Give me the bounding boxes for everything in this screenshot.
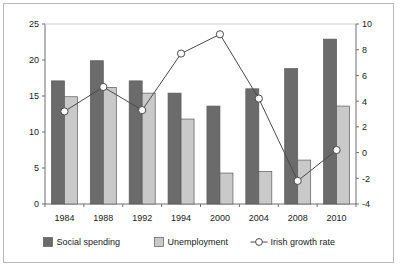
growth-rate-marker-1988 xyxy=(100,83,107,90)
x-axis-label-2008: 2008 xyxy=(288,213,308,223)
bar-unemployment-2004 xyxy=(259,172,272,204)
legend-label: Unemployment xyxy=(168,237,229,247)
bar-unemployment-1994 xyxy=(181,119,194,204)
right-axis-tick-label: 6 xyxy=(362,71,367,81)
legend-square-swatch xyxy=(44,238,53,247)
bar-social-spending-2004 xyxy=(246,89,259,204)
right-axis: -4-20246810 xyxy=(356,19,372,209)
right-axis-tick-label: 4 xyxy=(362,97,367,107)
left-axis-tick-label: 25 xyxy=(29,19,39,29)
combo-chart: 0510152025 -4-20246810 19841988199219942… xyxy=(4,4,395,264)
bars-layer xyxy=(51,39,349,204)
growth-rate-marker-2010 xyxy=(333,146,340,153)
growth-rate-marker-2004 xyxy=(255,95,262,102)
bar-social-spending-1992 xyxy=(129,81,142,204)
right-axis-tick-label: 2 xyxy=(362,122,367,132)
left-axis-tick-label: 10 xyxy=(29,127,39,137)
right-axis-tick-label: -4 xyxy=(362,199,370,209)
x-axis-label-1994: 1994 xyxy=(171,213,191,223)
left-axis-tick-label: 20 xyxy=(29,55,39,65)
bar-social-spending-2000 xyxy=(207,106,220,204)
legend-item-unemployment: Unemployment xyxy=(155,237,229,247)
x-axis-label-1992: 1992 xyxy=(132,213,152,223)
bar-unemployment-2000 xyxy=(220,173,233,204)
legend-label: Irish growth rate xyxy=(271,237,336,247)
bar-unemployment-1988 xyxy=(103,87,116,204)
legend-circle-marker-icon xyxy=(256,239,263,246)
bar-unemployment-2010 xyxy=(337,106,350,204)
bar-social-spending-2010 xyxy=(324,39,337,204)
legend-item-social-spending: Social spending xyxy=(44,237,121,247)
left-axis-tick-label: 5 xyxy=(34,163,39,173)
chart-legend: Social spendingUnemploymentIrish growth … xyxy=(44,237,336,247)
left-axis-tick-label: 15 xyxy=(29,91,39,101)
right-axis-tick-label: 8 xyxy=(362,45,367,55)
bar-social-spending-1988 xyxy=(90,61,103,204)
x-axis-label-2000: 2000 xyxy=(210,213,230,223)
x-axis-labels: 19841988199219942000200420082010 xyxy=(45,204,356,223)
bar-social-spending-1984 xyxy=(51,81,64,204)
bar-social-spending-1994 xyxy=(168,93,181,204)
growth-rate-marker-1994 xyxy=(177,50,184,57)
x-axis-label-2010: 2010 xyxy=(327,213,347,223)
left-axis-tick-label: 0 xyxy=(34,199,39,209)
growth-rate-marker-2008 xyxy=(294,177,301,184)
right-axis-tick-label: 10 xyxy=(362,19,372,29)
legend-item-irish-growth-rate: Irish growth rate xyxy=(251,237,336,247)
legend-square-swatch xyxy=(155,238,164,247)
legend-label: Social spending xyxy=(57,237,121,247)
right-axis-tick-label: 0 xyxy=(362,148,367,158)
x-axis-label-1984: 1984 xyxy=(54,213,74,223)
x-axis-label-1988: 1988 xyxy=(93,213,113,223)
growth-rate-marker-2000 xyxy=(216,31,223,38)
right-axis-tick-label: -2 xyxy=(362,174,370,184)
chart-plot-area: 0510152025 -4-20246810 19841988199219942… xyxy=(4,4,395,264)
chart-frame: 0510152025 -4-20246810 19841988199219942… xyxy=(3,3,394,263)
x-axis-label-2004: 2004 xyxy=(249,213,269,223)
growth-rate-marker-1992 xyxy=(139,107,146,114)
growth-rate-marker-1984 xyxy=(61,108,68,115)
